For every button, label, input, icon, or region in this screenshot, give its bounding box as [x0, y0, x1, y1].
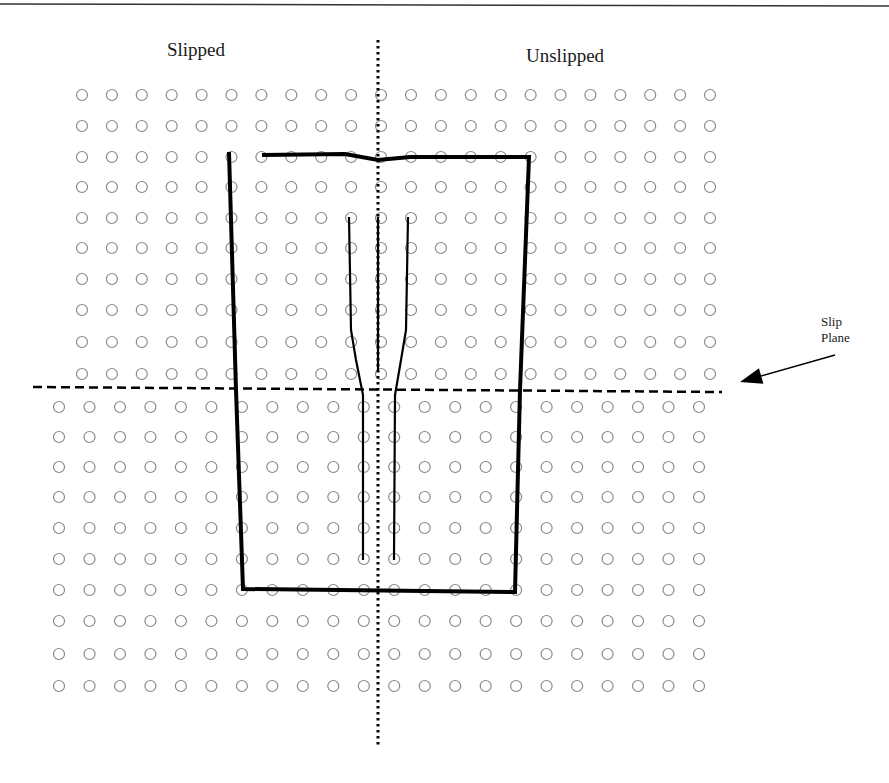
atom-icon	[555, 90, 566, 101]
atom-icon	[297, 523, 308, 534]
atom-icon	[602, 649, 613, 660]
atom-icon	[465, 182, 476, 193]
atom-icon	[389, 649, 400, 660]
atom-icon	[286, 213, 297, 224]
atom-icon	[663, 681, 674, 692]
atom-icon	[705, 90, 716, 101]
atom-icon	[541, 523, 552, 534]
atom-icon	[480, 492, 491, 503]
atom-icon	[115, 585, 126, 596]
atom-icon	[419, 432, 430, 443]
atom-icon	[316, 337, 327, 348]
atom-icon	[495, 182, 506, 193]
atom-icon	[572, 432, 583, 443]
atom-icon	[346, 213, 357, 224]
atom-icon	[572, 402, 583, 413]
atom-icon	[663, 432, 674, 443]
atom-icon	[633, 616, 644, 627]
atom-icon	[175, 585, 186, 596]
atom-icon	[419, 462, 430, 473]
atom-icon	[196, 274, 207, 285]
atom-icon	[145, 432, 156, 443]
atom-icon	[316, 121, 327, 132]
atom-icon	[77, 121, 88, 132]
atom-icon	[256, 369, 267, 380]
atom-icon	[166, 121, 177, 132]
atom-icon	[572, 462, 583, 473]
atom-icon	[645, 243, 656, 254]
slipped-region-label: Slipped	[167, 39, 225, 61]
atom-icon	[316, 243, 327, 254]
atom-icon	[297, 681, 308, 692]
atom-icon	[675, 90, 686, 101]
atom-icon	[419, 554, 430, 565]
slip-plane-label-line1: Slip	[821, 314, 850, 330]
atom-icon	[541, 462, 552, 473]
atom-icon	[206, 402, 217, 413]
atom-icon	[166, 90, 177, 101]
atom-icon	[435, 243, 446, 254]
atom-icon	[77, 369, 88, 380]
atom-icon	[525, 274, 536, 285]
atom-icon	[602, 554, 613, 565]
atom-icon	[145, 492, 156, 503]
atom-icon	[358, 681, 369, 692]
atom-icon	[346, 182, 357, 193]
atom-icon	[267, 616, 278, 627]
atom-icon	[602, 523, 613, 534]
atom-icon	[572, 616, 583, 627]
atom-icon	[705, 305, 716, 316]
slip-plane-label: Slip Plane	[821, 314, 850, 346]
atom-icon	[175, 432, 186, 443]
atom-icon	[555, 182, 566, 193]
atom-icon	[633, 554, 644, 565]
atom-icon	[54, 432, 65, 443]
atom-icon	[450, 492, 461, 503]
atom-icon	[585, 90, 596, 101]
atom-icon	[663, 523, 674, 534]
atom-icon	[328, 402, 339, 413]
atom-icon	[115, 492, 126, 503]
atom-icon	[645, 369, 656, 380]
atom-icon	[694, 432, 705, 443]
atom-icon	[572, 681, 583, 692]
atom-icon	[145, 585, 156, 596]
atom-icon	[256, 305, 267, 316]
atom-icon	[633, 523, 644, 534]
atom-icon	[77, 152, 88, 163]
atom-icon	[328, 554, 339, 565]
atom-icon	[555, 243, 566, 254]
atom-icon	[602, 585, 613, 596]
atom-icon	[694, 649, 705, 660]
atom-icon	[465, 274, 476, 285]
atom-icon	[256, 121, 267, 132]
atom-icon	[54, 649, 65, 660]
atom-icon	[256, 90, 267, 101]
atom-icon	[77, 90, 88, 101]
atom-icon	[115, 649, 126, 660]
atom-icon	[572, 585, 583, 596]
atom-icon	[645, 274, 656, 285]
atom-icon	[166, 305, 177, 316]
dislocation-diagram: Slipped Unslipped Slip Plane	[0, 0, 889, 783]
atom-icon	[495, 337, 506, 348]
atom-icon	[495, 305, 506, 316]
atom-icon	[175, 492, 186, 503]
atom-icon	[615, 274, 626, 285]
atom-icon	[115, 462, 126, 473]
atom-icon	[585, 337, 596, 348]
atom-icon	[705, 369, 716, 380]
atom-icon	[450, 462, 461, 473]
atom-icon	[450, 649, 461, 660]
atom-icon	[675, 152, 686, 163]
atom-icon	[495, 369, 506, 380]
atom-icon	[450, 616, 461, 627]
atom-icon	[541, 681, 552, 692]
atom-icon	[645, 121, 656, 132]
atom-icon	[525, 337, 536, 348]
atom-icon	[675, 274, 686, 285]
atom-icon	[316, 274, 327, 285]
atom-icon	[389, 681, 400, 692]
atom-icon	[136, 274, 147, 285]
atom-icon	[54, 616, 65, 627]
